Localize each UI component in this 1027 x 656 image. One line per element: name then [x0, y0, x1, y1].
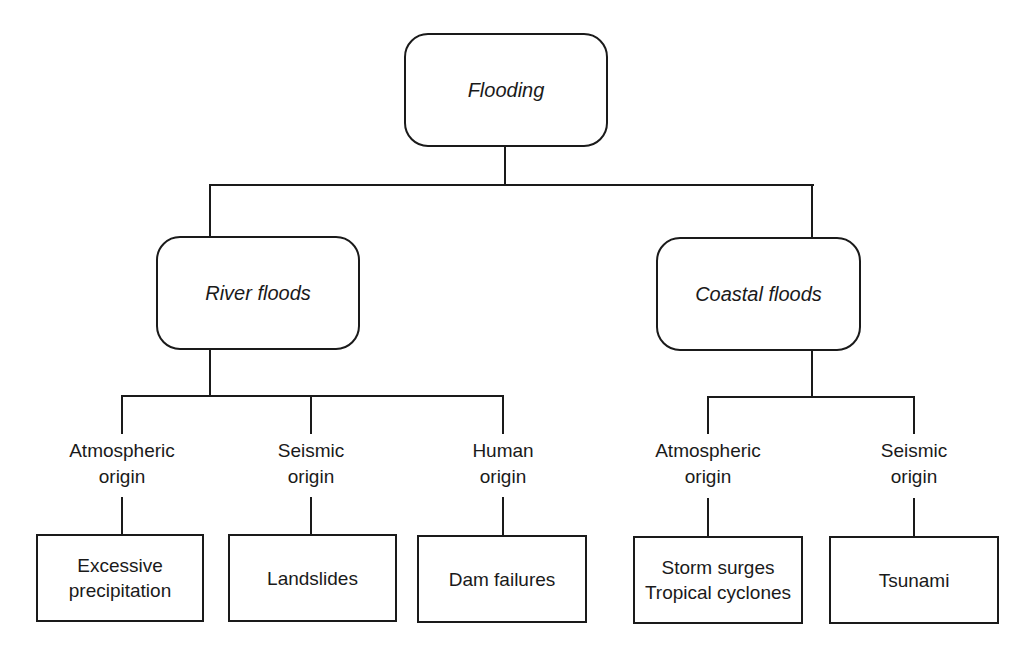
connector-river-drop — [209, 184, 211, 237]
node-coastal-floods: Coastal floods — [656, 237, 861, 351]
node-flooding-label: Flooding — [468, 79, 545, 102]
leaf-storm-surges: Storm surges Tropical cyclones — [633, 536, 803, 624]
origin-label-coastal-seismic: Seismic origin — [881, 438, 948, 490]
node-river-floods-label: River floods — [205, 282, 311, 305]
connector-river-bar — [121, 395, 504, 397]
connector-coastal-bar — [707, 396, 915, 398]
connector-excess-stem — [121, 497, 123, 536]
connector-river-atmo-drop — [121, 395, 123, 434]
leaf-dam-failures: Dam failures — [417, 535, 587, 623]
connector-storm-stem — [707, 498, 709, 537]
origin-label-river-atmospheric: Atmospheric origin — [69, 438, 175, 490]
connector-coastal-seismic-drop — [913, 396, 915, 434]
connector-coastal-drop — [811, 184, 813, 238]
connector-river-stem — [209, 349, 211, 397]
node-coastal-floods-label: Coastal floods — [695, 283, 822, 306]
origin-label-coastal-atmospheric: Atmospheric origin — [655, 438, 761, 490]
leaf-storm-surges-label: Storm surges Tropical cyclones — [645, 555, 791, 605]
node-flooding: Flooding — [404, 33, 608, 147]
leaf-landslides: Landslides — [228, 534, 397, 622]
connector-landslides-stem — [310, 497, 312, 536]
leaf-landslides-label: Landslides — [267, 566, 358, 591]
leaf-dam-failures-label: Dam failures — [449, 567, 556, 592]
leaf-tsunami-label: Tsunami — [879, 568, 950, 593]
connector-root-bar — [209, 184, 814, 186]
connector-coastal-stem — [811, 350, 813, 398]
origin-label-river-human: Human origin — [472, 438, 533, 490]
connector-coastal-atmo-drop — [707, 396, 709, 434]
leaf-excessive-precipitation-label: Excessive precipitation — [69, 553, 171, 603]
leaf-tsunami: Tsunami — [829, 536, 999, 624]
connector-dam-stem — [502, 497, 504, 536]
node-river-floods: River floods — [156, 236, 360, 350]
connector-river-seismic-drop — [310, 395, 312, 434]
connector-root-stem — [504, 146, 506, 186]
connector-river-human-drop — [502, 395, 504, 434]
leaf-excessive-precipitation: Excessive precipitation — [36, 534, 204, 622]
connector-tsunami-stem — [913, 498, 915, 537]
origin-label-river-seismic: Seismic origin — [278, 438, 345, 490]
